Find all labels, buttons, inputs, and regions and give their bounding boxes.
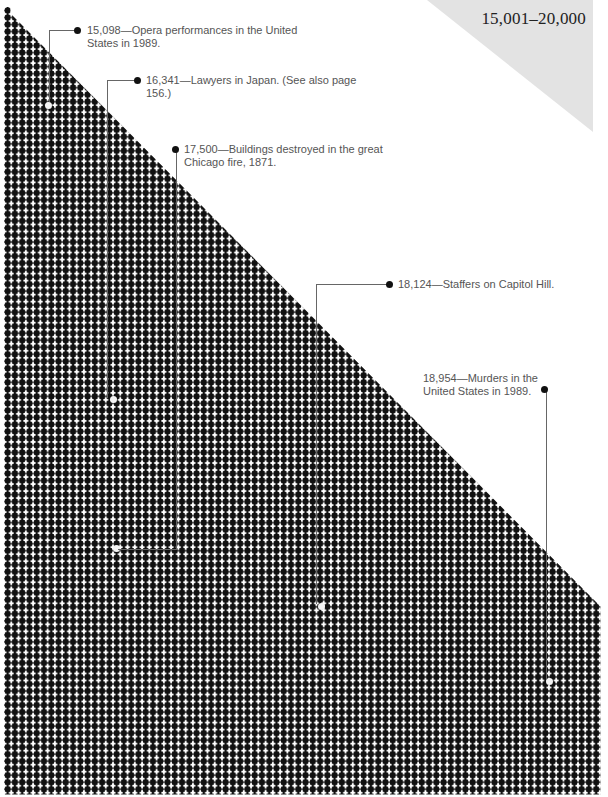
leader-18954-v: [546, 390, 547, 679]
leader-17500-v: [176, 150, 177, 549]
dot-field: [4, 7, 604, 795]
annotation-18954-line2: United States in 1989.: [423, 385, 538, 398]
highlight-dot-16341: [110, 396, 117, 403]
annotation-16341-line2: 156.): [146, 87, 356, 100]
pin-15098: [74, 27, 81, 34]
annotation-18954-line1: 18,954—Murders in the: [423, 372, 538, 385]
pin-16341: [134, 77, 141, 84]
highlight-dot-18954: [546, 678, 553, 685]
pin-17500: [172, 146, 179, 153]
pin-18954: [541, 386, 548, 393]
leader-18124-h: [316, 284, 389, 285]
highlight-dot-18124: [318, 603, 325, 610]
leader-18124-v: [316, 284, 317, 604]
annotation-18954: 18,954—Murders in the United States in 1…: [423, 372, 538, 398]
leader-17500-h: [118, 549, 177, 550]
leader-15098-v: [49, 30, 50, 102]
annotation-18124-line1: 18,124—Staffers on Capitol Hill.: [398, 278, 554, 291]
annotation-17500-line1: 17,500—Buildings destroyed in the great: [184, 143, 383, 156]
annotation-16341-line1: 16,341—Lawyers in Japan. (See also page: [146, 74, 356, 87]
range-title: 15,001–20,000: [481, 9, 586, 29]
annotation-15098: 15,098—Opera performances in the United …: [87, 24, 297, 50]
annotation-15098-line2: States in 1989.: [87, 37, 297, 50]
annotation-16341: 16,341—Lawyers in Japan. (See also page …: [146, 74, 356, 100]
annotation-17500-line2: Chicago fire, 1871.: [184, 156, 383, 169]
annotation-17500: 17,500—Buildings destroyed in the great …: [184, 143, 383, 169]
pin-18124: [386, 281, 393, 288]
leader-15098-h: [49, 30, 77, 31]
leader-16341-v: [107, 80, 108, 398]
annotation-18124: 18,124—Staffers on Capitol Hill.: [398, 278, 554, 291]
annotation-15098-line1: 15,098—Opera performances in the United: [87, 24, 297, 37]
highlight-dot-15098: [45, 102, 52, 109]
leader-16341-h: [107, 80, 137, 81]
